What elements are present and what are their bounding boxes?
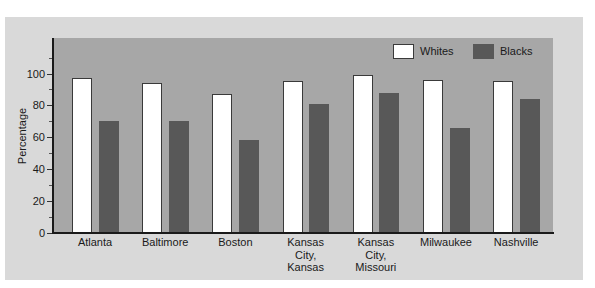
x-axis xyxy=(52,232,554,234)
y-tick-label: 0 xyxy=(15,227,45,239)
bar-blacks xyxy=(169,121,189,232)
legend-label-whites: Whites xyxy=(420,45,454,57)
legend-label-blacks: Blacks xyxy=(500,45,532,57)
plot-area xyxy=(53,38,553,233)
y-axis xyxy=(52,38,54,234)
bar-whites xyxy=(423,80,443,233)
x-category-label: Kansas City, Kansas xyxy=(266,236,346,274)
x-category-label: Atlanta xyxy=(55,236,135,249)
bar-whites xyxy=(283,81,303,232)
x-category-label: Boston xyxy=(195,236,275,249)
bar-blacks xyxy=(520,99,540,233)
bar-blacks xyxy=(239,140,259,232)
bar-whites xyxy=(493,81,513,232)
x-category-label: Milwaukee xyxy=(406,236,486,249)
bar-whites xyxy=(142,83,162,232)
y-tick-label: 20 xyxy=(15,195,45,207)
y-tick-label: 100 xyxy=(15,68,45,80)
x-category-label: Baltimore xyxy=(125,236,205,249)
bar-whites xyxy=(353,75,373,232)
x-category-label: Nashville xyxy=(476,236,556,249)
x-category-label: Kansas City, Missouri xyxy=(336,236,416,274)
bar-whites xyxy=(72,78,92,232)
bar-blacks xyxy=(309,104,329,233)
bar-blacks xyxy=(450,128,470,233)
legend-swatch-blacks xyxy=(473,44,494,59)
bar-blacks xyxy=(379,93,399,233)
legend-swatch-whites xyxy=(393,44,414,59)
bar-blacks xyxy=(99,121,119,232)
y-axis-title: Percentage xyxy=(16,106,28,166)
bar-whites xyxy=(212,94,232,232)
